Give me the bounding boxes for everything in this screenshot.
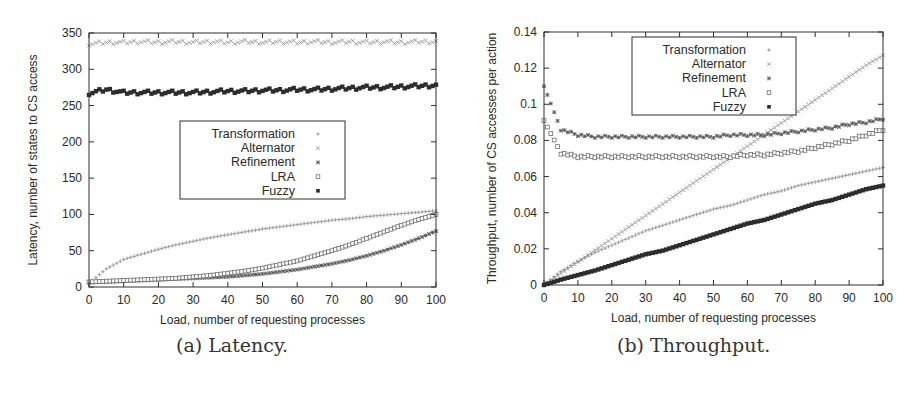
x-tick-label: 100 xyxy=(873,291,893,305)
y-tick-label: 150 xyxy=(62,171,82,185)
y-tick-label: 0.1 xyxy=(520,97,537,111)
x-tick-label: 0 xyxy=(541,291,548,305)
x-tick-label: 30 xyxy=(186,293,200,307)
x-tick-label: 70 xyxy=(325,293,339,307)
legend-label: Transformation xyxy=(662,43,746,57)
legend-label: Alternator xyxy=(241,141,295,155)
y-tick-label: 0.02 xyxy=(514,242,538,256)
legend-marker-icon xyxy=(767,105,771,109)
y-tick-label: 250 xyxy=(62,99,82,113)
legend-marker-icon xyxy=(767,91,771,95)
caption-throughput: (b) Throughput. xyxy=(617,334,770,356)
y-tick-label: 50 xyxy=(69,244,83,258)
y-tick-label: 0 xyxy=(530,278,537,292)
x-axis-label: Load, number of requesting processes xyxy=(611,311,816,325)
legend-label: LRA xyxy=(722,86,747,100)
legend-marker-icon xyxy=(316,175,320,179)
legend-marker-icon xyxy=(316,161,320,165)
y-axis-label: Throughput, number of CS accesses per ac… xyxy=(485,33,499,284)
x-tick-label: 10 xyxy=(117,293,131,307)
legend-label: LRA xyxy=(271,170,296,184)
throughput-chart: 0102030405060708090100Load, number of re… xyxy=(485,25,893,325)
legend: TransformationAlternatorRefinementLRAFuz… xyxy=(632,37,796,115)
x-tick-label: 80 xyxy=(360,293,374,307)
latency-chart: 0102030405060708090100Load, number of re… xyxy=(26,26,446,327)
legend-label: Refinement xyxy=(231,155,295,169)
x-tick-label: 80 xyxy=(809,291,823,305)
y-tick-label: 0.14 xyxy=(514,25,538,39)
series-refinement xyxy=(87,229,438,284)
legend: TransformationAlternatorRefinementLRAFuz… xyxy=(180,121,345,199)
legend-label: Transformation xyxy=(211,127,295,141)
x-tick-label: 20 xyxy=(152,293,166,307)
y-tick-label: 0.04 xyxy=(514,206,538,220)
x-tick-label: 100 xyxy=(426,293,446,307)
x-tick-label: 40 xyxy=(673,291,687,305)
legend-marker-icon xyxy=(767,77,771,81)
y-tick-label: 0.06 xyxy=(514,170,538,184)
series-fuzzy xyxy=(87,82,438,97)
x-tick-label: 90 xyxy=(842,291,856,305)
x-axis-label: Load, number of requesting processes xyxy=(160,313,365,327)
x-tick-label: 30 xyxy=(639,291,653,305)
legend-label: Refinement xyxy=(682,71,746,85)
legend-label: Fuzzy xyxy=(262,184,296,198)
x-tick-label: 10 xyxy=(571,291,585,305)
legend-label: Fuzzy xyxy=(713,100,747,114)
legend-marker-icon xyxy=(316,189,320,193)
series-alternator xyxy=(87,38,438,47)
x-tick-label: 60 xyxy=(291,293,305,307)
y-tick-label: 0 xyxy=(75,280,82,294)
x-tick-label: 20 xyxy=(605,291,619,305)
x-tick-label: 0 xyxy=(86,293,93,307)
series-fuzzy xyxy=(542,183,885,287)
y-tick-label: 100 xyxy=(62,207,82,221)
y-tick-label: 350 xyxy=(62,26,82,40)
y-tick-label: 300 xyxy=(62,62,82,76)
x-tick-label: 50 xyxy=(707,291,721,305)
legend-label: Alternator xyxy=(692,57,746,71)
x-tick-label: 60 xyxy=(741,291,755,305)
caption-latency: (a) Latency. xyxy=(176,334,288,356)
y-tick-label: 0.08 xyxy=(514,133,538,147)
y-axis-label: Latency, number of states to CS access xyxy=(26,54,40,265)
y-tick-label: 0.12 xyxy=(514,61,538,75)
x-tick-label: 70 xyxy=(775,291,789,305)
y-tick-label: 200 xyxy=(62,135,82,149)
x-tick-label: 50 xyxy=(256,293,270,307)
figure: 0102030405060708090100Load, number of re… xyxy=(0,0,922,394)
x-tick-label: 90 xyxy=(395,293,409,307)
x-tick-label: 40 xyxy=(221,293,235,307)
